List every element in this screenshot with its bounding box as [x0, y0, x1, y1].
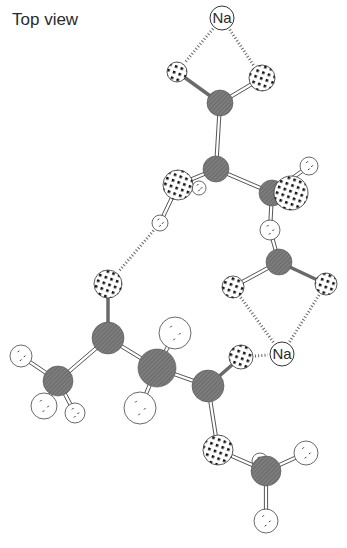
sodium-atom: Na [270, 342, 294, 366]
hydrogen-bond [289, 295, 319, 342]
hydrogen-atom [254, 509, 278, 533]
carbon-atom [207, 90, 233, 116]
hydrogen-atom [31, 393, 57, 419]
oxygen-atom [94, 270, 122, 298]
oxygen-atom [274, 176, 308, 210]
carbon-atom [192, 370, 224, 402]
carbon-atom [251, 456, 281, 486]
hydrogen-bond [241, 297, 274, 342]
oxygen-atom [249, 65, 275, 91]
hydrogen-bond [230, 30, 254, 66]
hydrogen-atom [300, 157, 318, 175]
atom-layer: NaNa [10, 6, 337, 533]
oxygen-atom [315, 273, 337, 295]
hydrogen-atom [159, 317, 191, 349]
bond-layer [20, 72, 326, 521]
oxygen-atom [229, 345, 253, 369]
hydrogen-bond [118, 231, 153, 272]
hydrogen-atom [294, 441, 318, 465]
hydrogen-bond [255, 355, 268, 356]
oxygen-atom [163, 170, 193, 200]
molecule-diagram: NaNa [0, 0, 347, 548]
hydrogen-atom [260, 220, 280, 240]
hydrogen-atom [152, 215, 168, 231]
hydrogen-atom [192, 181, 206, 195]
hydrogen-bond [185, 29, 213, 63]
oxygen-atom [222, 276, 244, 298]
carbon-atom [138, 349, 176, 387]
sodium-label: Na [212, 9, 232, 26]
carbon-atom [266, 249, 292, 275]
hydrogen-atom [124, 392, 156, 424]
oxygen-atom [167, 62, 187, 82]
sodium-label: Na [272, 345, 292, 362]
carbon-atom [43, 366, 73, 396]
hydrogen-atom [10, 345, 32, 367]
sodium-atom: Na [210, 6, 234, 30]
oxygen-atom [203, 435, 233, 465]
carbon-atom [203, 156, 229, 182]
carbon-atom [92, 322, 124, 354]
hydrogen-atom [65, 403, 85, 423]
